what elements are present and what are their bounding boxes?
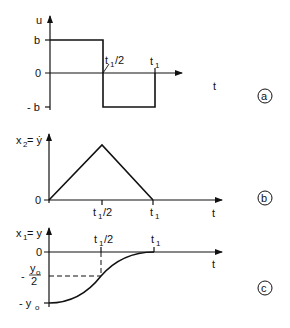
svg-text:2: 2: [31, 275, 37, 287]
svg-text:- y: - y: [19, 297, 32, 309]
c-tick-t1-half: t 1 /2: [94, 233, 113, 248]
panel-a-control-input: u b 0 - b t 1 /2 t 1 t a: [27, 14, 272, 113]
svg-text:t: t: [150, 55, 153, 67]
svg-text:x: x: [16, 227, 22, 239]
panel-b-velocity: x 2 = ẏ 0 t 1 /2 t 1 t b: [16, 134, 272, 221]
b-circle-label: b: [258, 191, 272, 205]
a-tick-t1-half: t 1 /2: [105, 54, 124, 69]
svg-text:t: t: [150, 206, 153, 218]
c-tick-t1: t 1: [151, 233, 161, 248]
c-tick-neg-half-y0: - y o 2: [21, 262, 41, 287]
svg-text:= ẏ: = ẏ: [27, 134, 42, 146]
b-tick-t1: t 1: [150, 206, 160, 221]
a-tick-t1: t 1: [150, 55, 160, 70]
svg-text:b: b: [261, 192, 267, 204]
svg-text:t: t: [105, 54, 108, 66]
b-tick-zero: 0: [35, 194, 41, 206]
svg-text:-: -: [21, 270, 25, 282]
c-y-label: x 1 = y: [16, 227, 42, 242]
b-y-label: x 2 = ẏ: [16, 134, 42, 149]
svg-text:1: 1: [155, 212, 160, 221]
a-y-label: u: [36, 14, 42, 26]
c-x-label: t: [212, 258, 215, 270]
b-x-label: t: [212, 207, 215, 219]
c-position-s-curve: [49, 252, 154, 303]
a-x-label: t: [213, 80, 216, 92]
b-tick-t1-half: t 1 /2: [93, 206, 112, 221]
svg-text:/2: /2: [104, 233, 113, 245]
svg-text:t: t: [151, 233, 154, 245]
c-tick-neg-y0: - y o: [19, 297, 40, 312]
c-tick-zero: 0: [36, 246, 42, 258]
c-circle-label: c: [258, 281, 272, 295]
panel-c-position: x 1 = y 0 - y o 2 - y o t 1 /2 t 1 t c: [16, 227, 272, 312]
a-tick-zero: 0: [35, 67, 41, 79]
a-circle-label: a: [258, 89, 272, 103]
svg-text:c: c: [261, 282, 267, 294]
svg-text:o: o: [35, 303, 40, 312]
a-tick-b: b: [34, 34, 40, 46]
svg-text:x: x: [16, 134, 22, 146]
svg-text:/2: /2: [115, 54, 124, 66]
svg-text:/2: /2: [103, 206, 112, 218]
svg-text:t: t: [93, 206, 96, 218]
svg-text:= y: = y: [27, 227, 42, 239]
time-optimal-control-diagram: u b 0 - b t 1 /2 t 1 t a x 2 = ẏ 0: [0, 0, 290, 328]
svg-text:a: a: [261, 90, 268, 102]
b-triangle-velocity-signal: [49, 145, 153, 200]
svg-text:1: 1: [156, 239, 161, 248]
svg-text:1: 1: [155, 61, 160, 70]
svg-text:t: t: [94, 233, 97, 245]
a-tick-neg-b: - b: [27, 101, 40, 113]
